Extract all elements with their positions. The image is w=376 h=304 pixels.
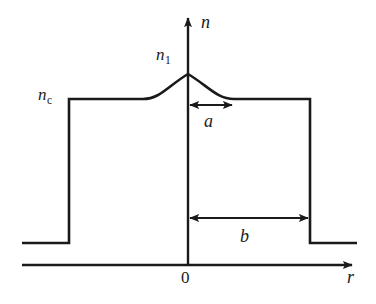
nc-cladding-index-label: nc — [38, 86, 52, 106]
origin-label: 0 — [181, 269, 190, 286]
n1-peak-index-label: n1 — [156, 46, 171, 66]
dimension-label-b: b — [240, 227, 249, 245]
n1-base: n — [156, 45, 165, 64]
nc-subscript: c — [47, 94, 52, 107]
n-axis-label: n — [201, 13, 210, 31]
nc-base: n — [38, 85, 47, 104]
figure-canvas: n n1 nc a b 0 r — [0, 0, 376, 304]
index-profile-diagram — [0, 0, 376, 304]
n1-subscript: 1 — [165, 54, 171, 67]
dimension-label-a: a — [204, 112, 213, 130]
r-axis-label: r — [347, 268, 354, 286]
